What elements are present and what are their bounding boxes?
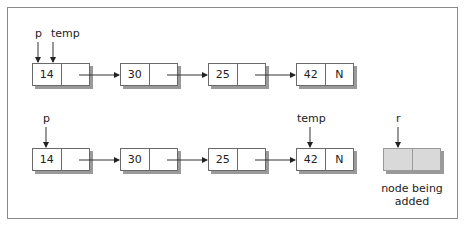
arrows-layer bbox=[0, 0, 464, 226]
